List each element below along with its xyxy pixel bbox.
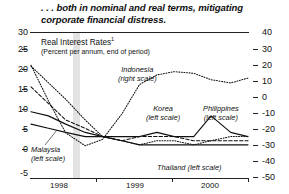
annotation-indonesia: Indonesia (right scale) (118, 66, 157, 83)
annotation-korea-name: Korea (153, 104, 173, 113)
annotation-philippines-name: Philippines (203, 104, 239, 113)
series-lines (0, 0, 289, 194)
annotation-korea: Korea (left scale) (146, 105, 180, 122)
annotation-leader-malaysia (45, 130, 57, 145)
annotation-malaysia-name: Malaysia (31, 145, 60, 154)
annotation-philippines: Philippines (left scale) (203, 105, 239, 122)
annotation-philippines-scale: (left scale) (203, 114, 239, 123)
annotation-thailand-name: Thailand (157, 163, 185, 172)
figure-real-interest-rates: . . . both in nominal and real terms, mi… (0, 0, 289, 194)
annotation-malaysia: Malaysia (left scale) (31, 146, 65, 163)
annotation-malaysia-scale: (left scale) (31, 155, 65, 164)
annotation-korea-scale: (left scale) (146, 114, 180, 123)
annotation-thailand-scale: (left scale) (187, 163, 221, 172)
annotation-indonesia-name: Indonesia (121, 65, 153, 74)
annotation-indonesia-scale: (right scale) (118, 75, 157, 84)
annotation-thailand: Thailand (left scale) (157, 164, 222, 173)
